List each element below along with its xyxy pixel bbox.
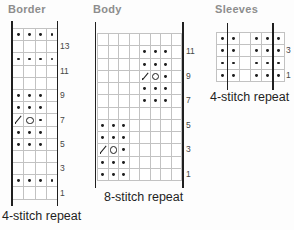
purl-dot-symbol — [266, 37, 269, 40]
chart-cell — [24, 53, 35, 65]
chart-cell — [151, 46, 162, 58]
body-repeat-line-right — [182, 22, 184, 188]
row-number: 1 — [60, 188, 65, 198]
purl-dot-symbol — [28, 131, 31, 134]
chart-cell — [13, 127, 24, 139]
chart-cell — [119, 95, 130, 107]
chart-cell — [251, 45, 262, 57]
chart-cell — [130, 59, 141, 71]
chart-cell — [98, 46, 109, 58]
border-repeat-line-left — [11, 21, 13, 206]
body-repeat-line-left — [95, 22, 97, 188]
row-number: 11 — [60, 66, 69, 76]
border-repeat-caption: 4-stitch repeat — [2, 209, 81, 223]
chart-cell — [24, 139, 35, 151]
chart-cell — [130, 132, 141, 144]
chart-cell — [13, 90, 24, 102]
row-number: 5 — [186, 120, 191, 130]
chart-cell — [151, 108, 162, 120]
chart-cell — [13, 114, 24, 126]
chart-cell — [119, 59, 130, 71]
chart-cell — [161, 71, 172, 83]
chart-cell — [228, 70, 239, 82]
chart-cell — [109, 95, 120, 107]
purl-dot-symbol — [28, 143, 31, 146]
chart-cell — [119, 83, 130, 95]
purl-dot-symbol — [17, 33, 20, 36]
purl-dot-symbol — [28, 179, 31, 182]
purl-dot-symbol — [101, 161, 104, 164]
chart-cell — [36, 90, 47, 102]
purl-dot-symbol — [221, 62, 224, 65]
chart-cell — [251, 33, 262, 45]
chart-cell — [130, 120, 141, 132]
purl-dot-symbol — [122, 124, 125, 127]
purl-dot-symbol — [39, 106, 42, 109]
chart-cell — [140, 34, 151, 46]
purl-dot-symbol — [255, 37, 258, 40]
chart-cell — [172, 71, 183, 83]
chart-cell — [151, 95, 162, 107]
chart-cell — [140, 144, 151, 156]
chart-cell — [24, 66, 35, 78]
chart-cell — [13, 163, 24, 175]
chart-cell — [13, 187, 24, 199]
purl-dot-symbol — [277, 74, 280, 77]
purl-dot-symbol — [122, 173, 125, 176]
chart-cell — [161, 169, 172, 181]
row-number: 7 — [186, 95, 191, 105]
chart-cell — [13, 102, 24, 114]
chart-cell — [109, 120, 120, 132]
chart-cell — [251, 57, 262, 69]
chart-cell — [24, 151, 35, 163]
purl-dot-symbol — [17, 94, 20, 97]
chart-cell — [130, 95, 141, 107]
chart-cell — [161, 34, 172, 46]
chart-cell — [119, 132, 130, 144]
chart-cell — [24, 175, 35, 187]
purl-dot-symbol — [122, 161, 125, 164]
border-chart-title: Border — [8, 3, 46, 15]
chart-cell — [130, 144, 141, 156]
purl-dot-symbol — [154, 99, 157, 102]
body-repeat-caption: 8-stitch repeat — [104, 190, 183, 204]
chart-cell — [130, 34, 141, 46]
chart-cell — [24, 114, 35, 126]
purl-dot-symbol — [51, 179, 54, 182]
chart-cell — [24, 127, 35, 139]
chart-cell — [172, 169, 183, 181]
chart-cell — [36, 151, 47, 163]
chart-cell — [172, 132, 183, 144]
chart-cell — [274, 33, 285, 45]
chart-cell — [119, 108, 130, 120]
chart-cell — [36, 66, 47, 78]
purl-dot-symbol — [101, 124, 104, 127]
chart-cell — [98, 157, 109, 169]
purl-dot-symbol — [112, 124, 115, 127]
chart-cell — [109, 132, 120, 144]
chart-cell — [161, 157, 172, 169]
sleeves-chart-title: Sleeves — [215, 3, 258, 15]
chart-cell — [140, 132, 151, 144]
row-number: 11 — [186, 46, 195, 56]
chart-cell — [172, 120, 183, 132]
chart-cell — [36, 187, 47, 199]
chart-cell — [109, 71, 120, 83]
row-number: 3 — [60, 163, 65, 173]
chart-cell — [151, 71, 162, 83]
chart-cell — [13, 139, 24, 151]
row-number: 5 — [60, 139, 65, 149]
chart-cell — [161, 59, 172, 71]
purl-dot-symbol — [28, 33, 31, 36]
chart-cell — [140, 71, 151, 83]
row-number: 3 — [186, 144, 191, 154]
purl-dot-symbol — [154, 87, 157, 90]
sleeves-repeat-line-left — [227, 23, 229, 90]
chart-cell — [24, 78, 35, 90]
purl-dot-symbol — [255, 62, 258, 65]
chart-cell — [24, 102, 35, 114]
chart-cell — [36, 102, 47, 114]
purl-dot-symbol — [28, 58, 31, 61]
chart-cell — [240, 57, 251, 69]
yarnover-symbol — [110, 146, 118, 154]
